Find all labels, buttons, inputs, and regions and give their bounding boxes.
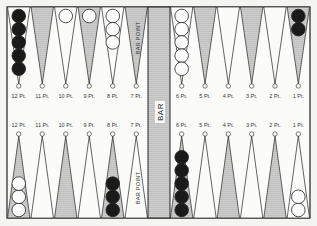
point-label-bottom: 5 Pt. — [199, 122, 211, 128]
point-label-top: 6 Pt. — [176, 93, 188, 99]
black-checker[interactable] — [106, 203, 120, 217]
point-tip-marker — [17, 132, 21, 136]
point-tip-marker — [40, 84, 44, 88]
svg-text:BAR: BAR — [156, 103, 165, 121]
white-checker[interactable] — [59, 9, 73, 23]
white-checker[interactable] — [12, 203, 26, 217]
black-checker[interactable] — [175, 150, 189, 164]
point-label-bottom: 12 Pt. — [12, 122, 27, 128]
black-checker[interactable] — [12, 36, 26, 50]
point-label-top: 9 Pt. — [84, 93, 96, 99]
point-label-bottom: 2 Pt. — [269, 122, 281, 128]
point-tip-marker — [134, 132, 138, 136]
white-checker[interactable] — [106, 9, 120, 23]
svg-text:BAR POINT: BAR POINT — [135, 171, 141, 204]
black-checker[interactable] — [175, 177, 189, 191]
black-checker[interactable] — [292, 9, 306, 23]
point-tip-marker — [249, 132, 253, 136]
black-checker[interactable] — [12, 62, 26, 76]
point-label-top: 7 Pt. — [131, 93, 143, 99]
point-tip-marker — [87, 84, 91, 88]
point-tip-marker — [179, 84, 183, 88]
black-checker[interactable] — [12, 22, 26, 36]
point-label-top: 12 Pt. — [12, 93, 27, 99]
point-tip-marker — [111, 84, 115, 88]
white-checker[interactable] — [175, 36, 189, 50]
point-label-bottom: 6 Pt. — [176, 122, 188, 128]
black-checker[interactable] — [175, 164, 189, 178]
point-label-top: 10 Pt. — [59, 93, 74, 99]
black-checker[interactable] — [175, 190, 189, 204]
white-checker[interactable] — [175, 9, 189, 23]
point-label-bottom: 8 Pt. — [107, 122, 119, 128]
point-tip-marker — [64, 84, 68, 88]
point-tip-marker — [273, 84, 277, 88]
point-label-bottom: 1 Pt. — [293, 122, 305, 128]
white-checker[interactable] — [12, 177, 26, 191]
point-label-top: 3 Pt. — [246, 93, 258, 99]
point-tip-marker — [64, 132, 68, 136]
point-label-bottom: 9 Pt. — [84, 122, 96, 128]
bar-point-label-bottom: BAR POINT — [135, 171, 141, 204]
point-tip-marker — [179, 132, 183, 136]
bar-point-label-top: BAR POINT — [135, 21, 141, 54]
black-checker[interactable] — [175, 203, 189, 217]
point-tip-marker — [249, 84, 253, 88]
point-label-bottom: 10 Pt. — [59, 122, 74, 128]
white-checker[interactable] — [106, 22, 120, 36]
point-label-top: 4 Pt. — [223, 93, 235, 99]
white-checker[interactable] — [106, 36, 120, 50]
white-checker[interactable] — [292, 203, 306, 217]
point-label-top: 11 Pt. — [35, 93, 49, 99]
white-checker[interactable] — [292, 190, 306, 204]
point-label-top: 2 Pt. — [269, 93, 281, 99]
black-checker[interactable] — [292, 22, 306, 36]
backgammon-board: BAR 12 Pt.11 Pt.10 Pt.9 Pt.8 Pt.7 Pt.6 P… — [0, 0, 317, 226]
point-label-top: 1 Pt. — [293, 93, 305, 99]
point-label-top: 5 Pt. — [199, 93, 211, 99]
point-tip-marker — [296, 132, 300, 136]
point-tip-marker — [40, 132, 44, 136]
point-tip-marker — [226, 84, 230, 88]
point-label-bottom: 3 Pt. — [246, 122, 258, 128]
point-tip-marker — [17, 84, 21, 88]
point-tip-marker — [203, 132, 207, 136]
black-checker[interactable] — [106, 190, 120, 204]
white-checker[interactable] — [175, 62, 189, 76]
point-label-bottom: 11 Pt. — [35, 122, 49, 128]
svg-text:BAR POINT: BAR POINT — [135, 21, 141, 54]
point-tip-marker — [296, 84, 300, 88]
black-checker[interactable] — [106, 177, 120, 191]
black-checker[interactable] — [12, 9, 26, 23]
point-label-bottom: 4 Pt. — [223, 122, 235, 128]
point-label-top: 8 Pt. — [107, 93, 119, 99]
point-tip-marker — [111, 132, 115, 136]
white-checker[interactable] — [12, 190, 26, 204]
point-label-bottom: 7 Pt. — [131, 122, 143, 128]
point-tip-marker — [273, 132, 277, 136]
white-checker[interactable] — [175, 22, 189, 36]
point-tip-marker — [203, 84, 207, 88]
white-checker[interactable] — [175, 49, 189, 63]
point-tip-marker — [226, 132, 230, 136]
point-tip-marker — [134, 84, 138, 88]
black-checker[interactable] — [12, 49, 26, 63]
bar-label: BAR — [155, 101, 165, 123]
point-tip-marker — [87, 132, 91, 136]
white-checker[interactable] — [82, 9, 96, 23]
